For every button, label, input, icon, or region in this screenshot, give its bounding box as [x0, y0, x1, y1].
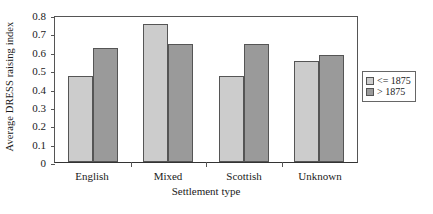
y-axis-title-label: Average DRESS raising index [5, 21, 16, 151]
y-axis-tick-label: 0.6 [32, 47, 46, 59]
x-axis-tick-mark [282, 162, 283, 167]
x-axis-tick-mark [206, 162, 207, 167]
bar-english-series-1 [93, 48, 118, 162]
bar-group [131, 17, 207, 162]
bar-scottish-series-1 [244, 44, 269, 162]
legend-swatch-icon [366, 77, 374, 85]
y-axis-tick-mark [51, 54, 55, 55]
legend: <= 1875> 1875 [362, 71, 416, 102]
y-axis-tick-label: 0.2 [32, 120, 46, 132]
y-axis-tick-labels: 00.10.20.30.40.50.60.70.8 [20, 16, 50, 163]
bar-group [206, 17, 282, 162]
legend-label: <= 1875 [377, 76, 411, 86]
x-axis-tick-mark [131, 162, 132, 167]
legend-swatch-icon [366, 88, 374, 96]
bar-chart-figure: Average DRESS raising index 00.10.20.30.… [0, 0, 433, 214]
y-axis-tick-label: 0 [41, 157, 47, 169]
bar-english-series-0 [68, 76, 93, 162]
bar-mixed-series-1 [168, 44, 193, 162]
x-axis-title: Settlement type [54, 185, 358, 197]
y-axis-tick-mark [51, 17, 55, 18]
x-axis-tick-label: English [54, 170, 130, 182]
y-axis-tick-label: 0.1 [32, 139, 46, 151]
y-axis-tick-label: 0.8 [32, 10, 46, 22]
y-axis-tick-mark [51, 127, 55, 128]
y-axis-tick-mark [51, 91, 55, 92]
legend-label: > 1875 [377, 87, 405, 97]
bar-group [55, 17, 131, 162]
y-axis-tick-label: 0.3 [32, 102, 46, 114]
y-axis-tick-label: 0.5 [32, 65, 46, 77]
legend-entry: <= 1875 [366, 76, 411, 86]
bar-scottish-series-0 [219, 76, 244, 162]
y-axis-tick-mark [51, 72, 55, 73]
plot-area [54, 16, 358, 163]
x-axis-tick-label: Scottish [206, 170, 282, 182]
y-axis-tick-mark [51, 146, 55, 147]
bar-unknown-series-1 [319, 55, 344, 162]
y-axis-tick-label: 0.4 [32, 84, 46, 96]
y-axis-tick-mark [51, 164, 55, 165]
y-axis-tick-mark [51, 35, 55, 36]
x-axis-tick-labels: EnglishMixedScottishUnknown [54, 170, 358, 182]
y-axis-tick-label: 0.7 [32, 28, 46, 40]
legend-entry: > 1875 [366, 87, 411, 97]
figure-caption [62, 203, 362, 214]
bar-group [282, 17, 358, 162]
bars-layer [55, 17, 357, 162]
bar-mixed-series-0 [143, 24, 168, 162]
x-axis-tick-label: Mixed [130, 170, 206, 182]
bar-unknown-series-0 [294, 61, 319, 162]
x-axis-tick-label: Unknown [282, 170, 358, 182]
y-axis-tick-mark [51, 109, 55, 110]
y-axis-title: Average DRESS raising index [0, 0, 20, 172]
